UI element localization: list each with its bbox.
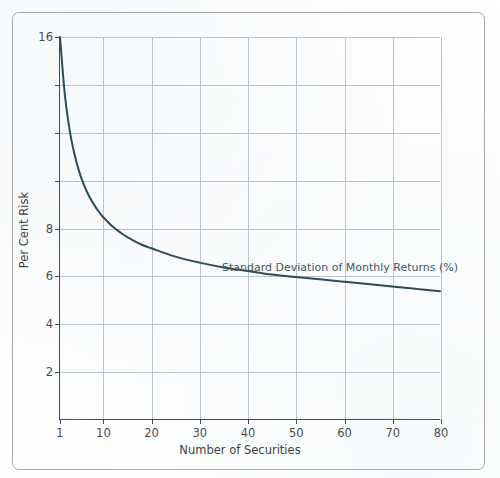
x-tick-label: 20 bbox=[144, 426, 159, 440]
y-tick-label: 8 bbox=[46, 222, 53, 236]
y-tick-label: 2 bbox=[46, 365, 53, 379]
x-tick-label: 40 bbox=[241, 426, 256, 440]
x-tick-mark bbox=[393, 419, 394, 424]
x-tick-mark bbox=[248, 419, 249, 424]
x-tick-mark bbox=[345, 419, 346, 424]
series-annotation-label: Standard Deviation of Monthly Returns (%… bbox=[222, 261, 458, 274]
y-axis-title: Per Cent Risk bbox=[17, 192, 31, 268]
x-tick-label: 80 bbox=[434, 426, 449, 440]
figure-page: Per Cent Risk Number of Securities 16864… bbox=[0, 0, 500, 478]
y-tick-label: 16 bbox=[38, 30, 53, 44]
plot-area: 168642 11020304050607080 Standard Deviat… bbox=[59, 37, 440, 420]
x-tick-mark bbox=[103, 419, 104, 424]
x-tick-mark bbox=[441, 419, 442, 424]
x-tick-label: 70 bbox=[385, 426, 400, 440]
x-tick-label: 50 bbox=[289, 426, 304, 440]
x-tick-mark bbox=[296, 419, 297, 424]
gridline-vertical bbox=[441, 37, 442, 419]
x-tick-label: 60 bbox=[337, 426, 352, 440]
x-tick-mark bbox=[152, 419, 153, 424]
x-tick-label: 30 bbox=[193, 426, 208, 440]
risk-curve-svg bbox=[60, 37, 440, 419]
y-tick-label: 4 bbox=[46, 317, 53, 331]
risk-curve-path bbox=[60, 37, 440, 291]
y-tick-label: 6 bbox=[46, 269, 53, 283]
x-tick-mark bbox=[200, 419, 201, 424]
x-axis-title: Number of Securities bbox=[179, 443, 300, 457]
x-tick-mark bbox=[60, 419, 61, 424]
x-tick-label: 1 bbox=[56, 426, 63, 440]
x-tick-label: 10 bbox=[96, 426, 111, 440]
